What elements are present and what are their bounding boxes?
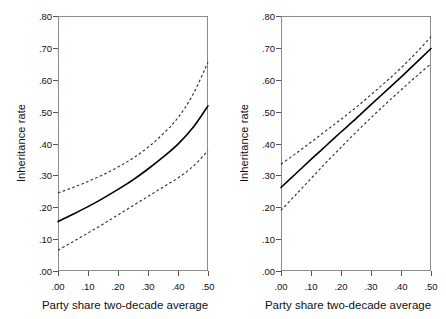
y-tick-mark-right [276, 48, 281, 49]
y-tick-mark-left [53, 48, 58, 49]
y-tick-mark-right [276, 16, 281, 17]
y-tick-label-right: .50 [249, 106, 275, 117]
chart-panel-right: Inheritance rate .80.70.60.50.40.30.20.1… [223, 0, 446, 319]
x-tick-label-right: .10 [296, 281, 326, 292]
y-tick-label-right: .20 [249, 202, 275, 213]
y-tick-label-left: .70 [26, 42, 52, 53]
y-tick-mark-right [276, 207, 281, 208]
x-tick-label-right: .50 [416, 281, 446, 292]
fit-line-right [281, 49, 431, 188]
x-tick-mark-right [431, 271, 432, 276]
y-tick-mark-left [53, 207, 58, 208]
curves-right [281, 16, 431, 271]
ci-lower-line-left [58, 151, 208, 250]
x-tick-label-left: .50 [193, 281, 223, 292]
y-axis-ticklabels-left: .80.70.60.50.40.30.20.10.00 [22, 16, 52, 271]
x-tick-label-right: .40 [386, 281, 416, 292]
y-tick-label-left: .20 [26, 202, 52, 213]
x-tick-mark-left [148, 271, 149, 276]
ci-upper-line-right [281, 37, 431, 165]
x-tick-mark-left [178, 271, 179, 276]
x-tick-label-right: .20 [326, 281, 356, 292]
x-tick-label-right: .30 [356, 281, 386, 292]
x-tick-mark-left [208, 271, 209, 276]
x-axis-title-left: Party share two-decade average [35, 299, 215, 311]
y-tick-label-left: .50 [26, 106, 52, 117]
x-axis-title-right: Party share two-decade average [258, 299, 438, 311]
y-tick-mark-left [53, 16, 58, 17]
y-tick-label-left: .80 [26, 11, 52, 22]
x-tick-mark-left [88, 271, 89, 276]
x-tick-mark-right [311, 271, 312, 276]
y-tick-mark-left [53, 112, 58, 113]
y-tick-mark-right [276, 80, 281, 81]
y-tick-label-right: .10 [249, 234, 275, 245]
x-tick-label-left: .00 [43, 281, 73, 292]
y-tick-label-left: .00 [26, 266, 52, 277]
y-tick-label-left: .40 [26, 138, 52, 149]
y-tick-mark-right [276, 175, 281, 176]
x-tick-label-right: .00 [266, 281, 296, 292]
y-tick-mark-left [53, 80, 58, 81]
ci-lower-line-right [281, 64, 431, 211]
x-axis-ticklabels-right: .00.10.20.30.40.50 [223, 281, 446, 297]
figure-root: Inheritance rate .80.70.60.50.40.30.20.1… [0, 0, 446, 319]
y-tick-label-right: .60 [249, 74, 275, 85]
plot-area-right [281, 16, 431, 271]
y-tick-label-right: .40 [249, 138, 275, 149]
y-tick-label-right: .00 [249, 266, 275, 277]
chart-panel-left: Inheritance rate .80.70.60.50.40.30.20.1… [0, 0, 223, 319]
y-tick-mark-left [53, 239, 58, 240]
y-tick-label-left: .60 [26, 74, 52, 85]
y-tick-mark-left [53, 175, 58, 176]
x-tick-label-left: .40 [163, 281, 193, 292]
ci-upper-line-left [58, 62, 208, 193]
fit-line-left [58, 106, 208, 222]
x-tick-mark-right [401, 271, 402, 276]
y-tick-label-left: .10 [26, 234, 52, 245]
y-tick-mark-right [276, 239, 281, 240]
x-tick-label-left: .30 [133, 281, 163, 292]
y-tick-mark-right [276, 144, 281, 145]
y-tick-mark-left [53, 144, 58, 145]
x-tick-mark-right [281, 271, 282, 276]
x-tick-mark-right [371, 271, 372, 276]
x-tick-label-left: .20 [103, 281, 133, 292]
curves-left [58, 16, 208, 271]
x-tick-label-left: .10 [73, 281, 103, 292]
y-tick-label-right: .30 [249, 170, 275, 181]
y-tick-label-left: .30 [26, 170, 52, 181]
x-tick-mark-left [58, 271, 59, 276]
x-tick-mark-left [118, 271, 119, 276]
y-tick-label-right: .70 [249, 42, 275, 53]
y-tick-mark-right [276, 112, 281, 113]
y-axis-ticklabels-right: .80.70.60.50.40.30.20.10.00 [245, 16, 275, 271]
plot-area-left [58, 16, 208, 271]
y-tick-label-right: .80 [249, 11, 275, 22]
x-tick-mark-right [341, 271, 342, 276]
